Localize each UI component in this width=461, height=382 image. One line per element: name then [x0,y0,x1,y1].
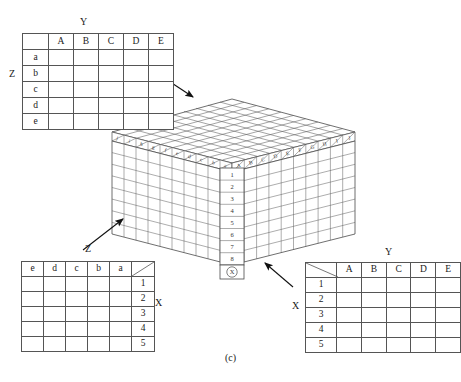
cell[interactable] [66,277,88,292]
cell[interactable] [110,322,132,337]
cell[interactable] [110,277,132,292]
front-number-8: 8 [230,255,233,262]
table-row[interactable]: 3 [22,307,155,322]
cell[interactable] [44,322,66,337]
cell[interactable] [124,82,149,98]
cell[interactable] [74,98,99,114]
cell[interactable] [44,292,66,307]
cell[interactable] [436,338,461,353]
col-header-E: E [436,263,461,278]
cell[interactable] [386,293,411,308]
cell[interactable] [386,308,411,323]
cell[interactable] [88,277,110,292]
cell[interactable] [149,82,174,98]
front-column-marker-cell[interactable]: X [220,265,244,279]
cell[interactable] [124,114,149,130]
table-row[interactable]: e [23,114,174,130]
cell[interactable] [361,278,386,293]
cell[interactable] [149,66,174,82]
cell[interactable] [411,293,436,308]
cell[interactable] [99,98,124,114]
cell[interactable] [337,323,362,338]
cell[interactable] [361,338,386,353]
cell[interactable] [337,338,362,353]
table-row[interactable]: 1 [306,278,461,293]
cell[interactable] [436,278,461,293]
table-row[interactable]: 2 [306,293,461,308]
table-row[interactable]: 5 [22,337,155,352]
cell[interactable] [361,293,386,308]
cell[interactable] [110,292,132,307]
cell[interactable] [436,323,461,338]
cell[interactable] [66,307,88,322]
cell[interactable] [22,277,44,292]
table-row[interactable]: 4 [22,322,155,337]
cell[interactable] [66,322,88,337]
cell[interactable] [436,308,461,323]
cell[interactable] [110,307,132,322]
cell[interactable] [49,98,74,114]
cell[interactable] [386,323,411,338]
cell[interactable] [74,66,99,82]
cell[interactable] [49,66,74,82]
cell[interactable] [337,308,362,323]
table-row[interactable]: 1 [22,277,155,292]
cell[interactable] [88,337,110,352]
table-yz-projection[interactable]: A B C D E a b c d e [22,33,174,130]
table-zx-projection[interactable]: e d c b a 1 2 3 [21,261,155,352]
table-row[interactable]: a [23,50,174,66]
cell[interactable] [149,98,174,114]
cell[interactable] [88,322,110,337]
cell[interactable] [74,50,99,66]
cell[interactable] [99,114,124,130]
cell[interactable] [22,292,44,307]
cell[interactable] [411,323,436,338]
table-row[interactable]: 5 [306,338,461,353]
table-row[interactable]: b [23,66,174,82]
cell[interactable] [337,278,362,293]
cell[interactable] [22,337,44,352]
col-header-a: a [110,262,132,277]
cell[interactable] [74,114,99,130]
cell[interactable] [99,50,124,66]
cell[interactable] [337,293,362,308]
cell[interactable] [361,308,386,323]
cell[interactable] [44,337,66,352]
cell[interactable] [361,323,386,338]
table-row[interactable]: 2 [22,292,155,307]
cell[interactable] [149,114,174,130]
cell[interactable] [99,82,124,98]
cell[interactable] [124,66,149,82]
cell[interactable] [44,307,66,322]
cell[interactable] [49,114,74,130]
cell[interactable] [22,307,44,322]
cell[interactable] [411,338,436,353]
cell[interactable] [49,50,74,66]
table-row[interactable]: c [23,82,174,98]
bottom-left-table-x-axis-label: X [155,297,162,308]
cell[interactable] [124,98,149,114]
cell[interactable] [22,322,44,337]
cell[interactable] [99,66,124,82]
table-xy-projection[interactable]: A B C D E 1 2 3 4 5 [305,262,461,353]
cell[interactable] [386,278,411,293]
cube-front-numbered-column[interactable]: 1 2 3 4 5 6 7 8 X [220,168,244,279]
cell[interactable] [44,277,66,292]
cell[interactable] [411,308,436,323]
cell[interactable] [49,82,74,98]
cell[interactable] [411,278,436,293]
cell[interactable] [66,337,88,352]
col-header-C: C [386,263,411,278]
cell[interactable] [124,50,149,66]
cell[interactable] [66,292,88,307]
table-row[interactable]: 3 [306,308,461,323]
cell[interactable] [436,293,461,308]
cell[interactable] [149,50,174,66]
cell[interactable] [74,82,99,98]
cell[interactable] [386,338,411,353]
table-row[interactable]: d [23,98,174,114]
table-row[interactable]: 4 [306,323,461,338]
cell[interactable] [88,292,110,307]
cell[interactable] [88,307,110,322]
cell[interactable] [110,337,132,352]
